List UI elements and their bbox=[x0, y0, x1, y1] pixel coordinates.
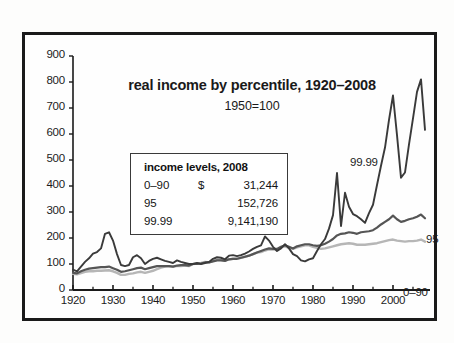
x-axis-tick-label: 2000 bbox=[373, 294, 413, 306]
income-levels-row-value: 9,141,190 bbox=[228, 215, 278, 227]
income-levels-row-label: 95 bbox=[144, 197, 157, 209]
x-axis-tick-label: 1920 bbox=[53, 294, 93, 306]
income-levels-row-value: 152,726 bbox=[237, 197, 278, 209]
income-levels-box: income levels, 2008 0–90 $ 31,244 95 152… bbox=[130, 153, 288, 235]
x-axis-tick-label: 1940 bbox=[133, 294, 173, 306]
y-axis-tick-label: 200 bbox=[31, 230, 65, 242]
series-label-95: 95 bbox=[426, 233, 438, 245]
income-levels-row-label: 0–90 bbox=[144, 179, 169, 191]
x-axis-tick-label: 1980 bbox=[293, 294, 333, 306]
income-levels-row-value: 31,244 bbox=[243, 179, 278, 191]
y-axis-tick-label: 800 bbox=[31, 74, 65, 86]
y-axis-tick-label: 100 bbox=[31, 256, 65, 268]
income-levels-row-label: 99.99 bbox=[144, 215, 172, 227]
y-axis-tick-label: 500 bbox=[31, 152, 65, 164]
x-axis-tick-label: 1930 bbox=[93, 294, 133, 306]
y-axis-tick-label: 700 bbox=[31, 100, 65, 112]
series-label-99-99: 99.99 bbox=[350, 156, 378, 168]
income-levels-row-currency: $ bbox=[198, 179, 204, 191]
x-axis-tick-label: 1960 bbox=[213, 294, 253, 306]
y-axis-tick-label: 900 bbox=[31, 48, 65, 60]
figure-page: real income by percentile, 1920–2008 195… bbox=[0, 0, 454, 343]
y-axis-tick-label: 0 bbox=[31, 282, 65, 294]
y-axis-tick-label: 400 bbox=[31, 178, 65, 190]
income-levels-box-title: income levels, 2008 bbox=[144, 161, 248, 173]
figure-frame: real income by percentile, 1920–2008 195… bbox=[22, 32, 437, 321]
x-axis-tick-label: 1950 bbox=[173, 294, 213, 306]
income-levels-row: 0–90 $ 31,244 bbox=[144, 179, 278, 196]
income-levels-row: 99.99 9,141,190 bbox=[144, 215, 278, 232]
y-axis-tick-label: 300 bbox=[31, 204, 65, 216]
x-axis-tick-label: 1970 bbox=[253, 294, 293, 306]
x-axis-tick-label: 1990 bbox=[333, 294, 373, 306]
y-axis-tick-label: 600 bbox=[31, 126, 65, 138]
income-levels-row: 95 152,726 bbox=[144, 197, 278, 214]
